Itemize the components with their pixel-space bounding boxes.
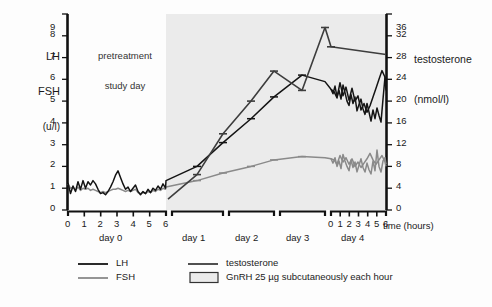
x-hour-day4-4: 4	[365, 219, 370, 229]
right-tick-36: 36	[396, 22, 407, 32]
right-tick-12: 12	[396, 138, 407, 148]
x-hour-day4-6: 6	[383, 219, 388, 229]
right-tick-4: 4	[396, 181, 401, 191]
x-hour-day0-3: 3	[114, 219, 119, 229]
left-tick-5: 5	[50, 94, 55, 104]
legend-label-testosterone: testosterone	[226, 258, 278, 268]
x-hour-day4-2: 2	[347, 219, 352, 229]
x-hour-day4-1: 1	[338, 219, 343, 229]
x-hour-day4-3: 3	[356, 219, 361, 229]
right-tick-8: 8	[396, 159, 401, 169]
x-hour-day4-5: 5	[374, 219, 379, 229]
left-tick-6: 6	[50, 72, 55, 82]
x-hour-day0-6: 6	[163, 219, 168, 229]
x-day-group-3: day 3	[286, 233, 309, 243]
right-tick-0: 0	[396, 203, 401, 213]
x-day-group-0: day 0	[99, 233, 122, 243]
legend-box-gnrh	[190, 273, 218, 283]
right-tick-28: 28	[396, 51, 407, 61]
x-hour-day0-0: 0	[65, 219, 70, 229]
right-tick-20: 20	[396, 94, 407, 104]
legend-label-fsh: FSH	[116, 272, 135, 282]
legend-label-lh: LH	[116, 258, 128, 268]
x-hour-day0-5: 5	[147, 219, 152, 229]
figure-root: LH FSH (u/l) testosterone (nmol/l) pretr…	[0, 0, 492, 307]
legend-label-gnrh: GnRH 25 µg subcutaneously each hour	[226, 272, 393, 282]
left-tick-4: 4	[50, 116, 55, 126]
left-tick-1: 1	[50, 181, 55, 191]
right-tick-16: 16	[396, 116, 407, 126]
x-hour-day4-0: 0	[328, 219, 333, 229]
left-tick-0: 0	[50, 203, 55, 213]
x-hour-day0-2: 2	[98, 219, 103, 229]
left-tick-3: 3	[50, 138, 55, 148]
x-hour-day0-4: 4	[131, 219, 136, 229]
right-tick-24: 24	[396, 72, 407, 82]
x-day-group-1: day 1	[182, 233, 205, 243]
left-tick-2: 2	[50, 159, 55, 169]
left-tick-7: 7	[50, 51, 55, 61]
x-axis-brackets	[68, 211, 386, 217]
x-hour-day0-1: 1	[82, 219, 87, 229]
x-day-group-2: day 2	[235, 233, 258, 243]
x-day-group-4: day 4	[341, 233, 364, 243]
left-tick-9: 9	[50, 22, 55, 32]
